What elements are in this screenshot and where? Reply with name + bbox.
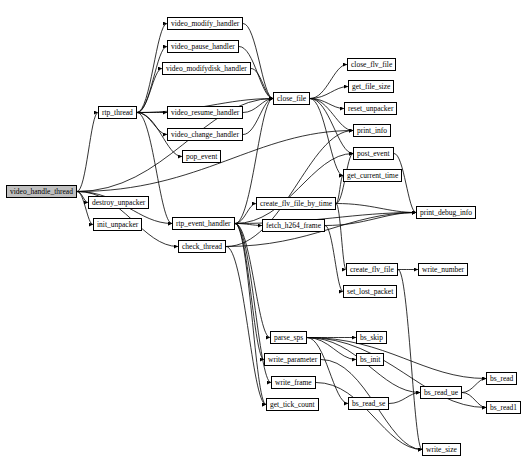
edge-bs-read-ue-to-bs-read	[462, 379, 486, 393]
node-set-lost-packet[interactable]: set_lost_packet	[343, 285, 397, 298]
node-create-flv-file[interactable]: create_flv_file	[346, 263, 398, 276]
edge-parse-sps-to-bs-read	[307, 338, 486, 379]
node-get-current-time[interactable]: get_current_time	[343, 169, 402, 182]
edge-post-event-to-print-debug-info	[394, 154, 416, 213]
node-rtp-event-handler[interactable]: rtp_event_handler	[172, 217, 235, 230]
edge-rtp-thread-to-video-pause-handler	[137, 47, 167, 113]
edge-create-flv-file-to-write-size	[398, 270, 422, 450]
edge-create-flv-file-by-time-to-print-debug-info	[336, 204, 416, 213]
node-video-modifydisk-handler[interactable]: video_modifydisk_handler	[162, 62, 251, 75]
node-get-tick-count[interactable]: get_tick_count	[266, 398, 319, 411]
edge-bs-read-se-to-bs-read-ue	[389, 393, 420, 404]
edge-rtp-event-handler-to-get-tick-count	[235, 224, 266, 405]
node-close-file[interactable]: close_file	[273, 92, 310, 105]
node-bs-read[interactable]: bs_read	[486, 372, 517, 385]
node-write-number[interactable]: write_number	[418, 263, 468, 276]
node-parse-sps[interactable]: parse_sps	[270, 331, 307, 344]
node-print-debug-info[interactable]: print_debug_info	[416, 206, 476, 219]
node-video-change-handler[interactable]: video_change_handler	[167, 128, 243, 141]
node-bs-read-ue[interactable]: bs_read_ue	[420, 386, 462, 399]
node-print-info[interactable]: print_info	[353, 124, 391, 137]
node-post-event[interactable]: post_event	[353, 147, 394, 160]
edge-parse-sps-to-bs-read-se	[307, 338, 348, 404]
node-bs-read1[interactable]: bs_read1	[486, 401, 521, 414]
node-check-thread[interactable]: check_thread	[178, 240, 226, 253]
edge-rtp-thread-to-video-modifydisk-handler	[137, 69, 162, 113]
node-destroy-unpacker[interactable]: destroy_unpacker	[88, 196, 149, 209]
node-pop-event[interactable]: pop_event	[182, 150, 221, 163]
edge-video-handle-thread-to-destroy-unpacker	[77, 192, 88, 203]
call-graph-edges	[0, 0, 522, 474]
node-video-modify-handler[interactable]: video_modify_handler	[167, 17, 243, 30]
edge-video-handle-thread-to-rtp-thread	[77, 113, 98, 192]
node-write-frame[interactable]: write_frame	[271, 376, 316, 389]
node-video-resume-handler[interactable]: video_resume_handler	[167, 106, 243, 119]
edge-write-frame-to-write-size	[316, 383, 422, 450]
node-reset-unpacker[interactable]: reset_unpacker	[344, 102, 397, 115]
node-rtp-thread[interactable]: rtp_thread	[98, 106, 137, 119]
node-video-handle-thread[interactable]: video_handle_thread	[6, 185, 77, 198]
node-create-flv-file-by-time[interactable]: create_flv_file_by_time	[256, 197, 336, 210]
node-bs-init[interactable]: bs_init	[356, 353, 384, 366]
node-init-unpacker[interactable]: init_unpacker	[93, 218, 142, 231]
node-write-parameter[interactable]: write_parameter	[264, 353, 321, 366]
node-write-size[interactable]: write_size	[422, 443, 461, 456]
node-close-flv-file[interactable]: close_flv_file	[347, 58, 396, 71]
node-video-pause-handler[interactable]: video_pause_handler	[167, 40, 239, 53]
node-bs-skip[interactable]: bs_skip	[356, 331, 387, 344]
edge-check-thread-to-get-tick-count	[226, 247, 266, 405]
node-fetch-h264-frame[interactable]: fetch_h264_frame	[262, 219, 325, 232]
node-bs-read-se[interactable]: bs_read_se	[348, 397, 389, 410]
node-get-file-size[interactable]: get_file_size	[348, 80, 394, 93]
edge-video-modify-handler-to-close-file	[243, 24, 273, 99]
edge-fetch-h264-frame-to-set-lost-packet	[325, 226, 343, 292]
edge-create-flv-file-by-time-to-create-flv-file	[336, 204, 346, 270]
